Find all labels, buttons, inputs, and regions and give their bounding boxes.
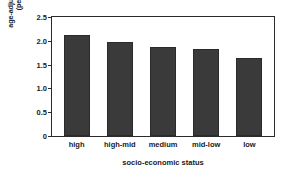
x-axis-tick-label: high-mid: [98, 140, 141, 154]
x-axis-title: socio-economic status: [51, 158, 275, 167]
bar: [193, 49, 219, 136]
x-axis-tick-label: high: [55, 140, 98, 154]
plot-area: 00.51.01.52.02.5: [51, 16, 275, 137]
bar-slot: [142, 17, 185, 136]
bar: [150, 47, 176, 136]
bar-slot: [227, 17, 270, 136]
y-axis-tick-mark: [48, 136, 52, 137]
bar-slot: [184, 17, 227, 136]
bar: [236, 58, 262, 136]
x-axis-tick-labels: highhigh-midmediummid-lowlow: [51, 140, 275, 154]
bar: [64, 35, 90, 136]
bar: [107, 42, 133, 136]
bar-chart-figure: age-adjusted incidence (per 100,000) 00.…: [0, 0, 288, 182]
x-axis-tick-label: low: [228, 140, 271, 154]
bar-slot: [99, 17, 142, 136]
bar-slot: [56, 17, 99, 136]
x-axis-tick-label: mid-low: [185, 140, 228, 154]
y-axis-title: age-adjusted incidence (per 100,000): [2, 0, 28, 44]
x-axis-tick-label: medium: [141, 140, 184, 154]
y-axis-title-line-2: (per 100,000): [15, 0, 23, 10]
bar-series: [52, 17, 274, 136]
